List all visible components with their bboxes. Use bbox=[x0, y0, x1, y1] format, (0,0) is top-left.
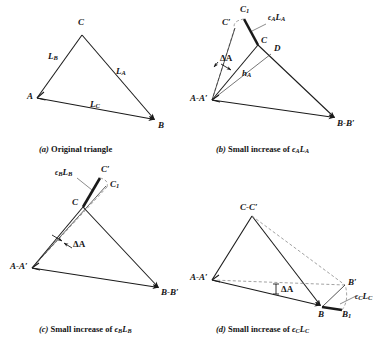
panel-d-delta-area-label: ΔA bbox=[281, 285, 293, 294]
edge-AA-to-BB bbox=[32, 268, 159, 288]
edge-B-to-Bprime bbox=[322, 285, 345, 307]
panel-b-caption: (b) Small increase of ϵALA bbox=[216, 145, 309, 154]
panel-d-vertex-label-CCprime: C-C′ bbox=[240, 203, 258, 212]
delta-area-gap-indicator bbox=[273, 284, 279, 294]
segment-C-to-C1-increment bbox=[244, 19, 258, 45]
leader-epsB-LB bbox=[77, 178, 92, 190]
panel-a-vertex-label-C: C bbox=[78, 18, 84, 27]
delta-area-tick bbox=[214, 62, 218, 67]
panel-c-vertex-label-Cprime: C′ bbox=[101, 165, 110, 174]
panel-c-caption: (c) Small increase of ϵBLB bbox=[39, 325, 132, 334]
panel-a-caption: (a) Original triangle bbox=[39, 145, 112, 154]
segment-B-to-B1-increment bbox=[322, 307, 342, 310]
panel-d-increment-label-epsC-LC: ϵCLC bbox=[355, 292, 372, 302]
panel-d-vertex-label-B1: B1 bbox=[342, 310, 351, 320]
panel-b-increment-label-epsA-LA: ϵALA bbox=[268, 13, 285, 23]
delta-area-tick bbox=[64, 243, 72, 248]
segment-C-to-Cprime-increment bbox=[83, 178, 100, 207]
panel-c-vertex-label-C1: C1 bbox=[110, 180, 119, 190]
panel-c-vertex-label-C: C bbox=[72, 198, 78, 207]
edge-AA-to-Cprime bbox=[212, 28, 235, 100]
panel-d-caption: (d) Small increase of ϵCLC bbox=[216, 325, 309, 334]
leader-epsC-LC bbox=[340, 296, 356, 304]
panel-b-height-label-hA: hA bbox=[242, 69, 251, 79]
panel-d-linework bbox=[212, 216, 356, 310]
figure-container: C A B LB LA LC (a) Original triangle C1 … bbox=[0, 0, 384, 354]
panel-b-linework bbox=[212, 19, 335, 118]
dashed-arc-Cprime-to-C1 bbox=[100, 178, 107, 187]
panel-c-increment-label-epsB-LB: ϵBLB bbox=[55, 168, 72, 178]
edge-C-to-BB bbox=[258, 45, 335, 118]
panel-b-vertex-label-AAprime: A-A′ bbox=[190, 94, 208, 103]
panel-b-vertex-label-BBprime: B-B′ bbox=[337, 119, 355, 128]
panel-c-delta-area-label: ΔA bbox=[73, 240, 85, 249]
edge-AA-to-C bbox=[32, 207, 83, 268]
arrowhead-at-AA bbox=[212, 275, 220, 282]
panel-b-delta-area-label: ΔA bbox=[220, 54, 232, 63]
edge-AA-to-C1 bbox=[32, 186, 106, 268]
panel-d-vertex-label-Bprime: B′ bbox=[348, 278, 357, 287]
leader-epsA-LA bbox=[252, 24, 266, 31]
panel-d-vertex-label-AAprime: A-A′ bbox=[190, 273, 208, 282]
dashed-arc-C1-to-Cprime bbox=[234, 19, 244, 29]
edge-C-to-BB bbox=[83, 207, 159, 288]
panel-a-vertex-label-A: A bbox=[27, 92, 33, 101]
panel-c-vertex-label-AAprime: A-A′ bbox=[10, 262, 28, 271]
panel-b-vertex-label-D: D bbox=[274, 44, 281, 53]
panel-b-vertex-label-C: C bbox=[261, 36, 267, 45]
panel-d-vertex-label-B: B bbox=[318, 310, 324, 319]
panel-b-vertex-label-Cprime: C′ bbox=[222, 18, 231, 27]
edge-AA-to-BB bbox=[212, 100, 335, 118]
panel-a-side-label-LB: LB bbox=[48, 52, 58, 62]
dashed-arc-B1-to-Bprime bbox=[342, 286, 347, 310]
dashed-edge-CC-to-Bprime bbox=[252, 216, 345, 285]
panel-b-vertex-label-C1: C1 bbox=[240, 5, 249, 15]
panel-c-vertex-label-BBprime: B-B′ bbox=[161, 288, 179, 297]
edge-A-to-C bbox=[37, 35, 82, 98]
edge-AA-to-CC bbox=[212, 216, 252, 280]
panel-c-linework bbox=[32, 178, 159, 288]
panel-a-side-label-LC: LC bbox=[90, 100, 100, 110]
panel-a-side-label-LA: LA bbox=[116, 67, 126, 77]
panel-a-vertex-label-B: B bbox=[158, 121, 164, 130]
